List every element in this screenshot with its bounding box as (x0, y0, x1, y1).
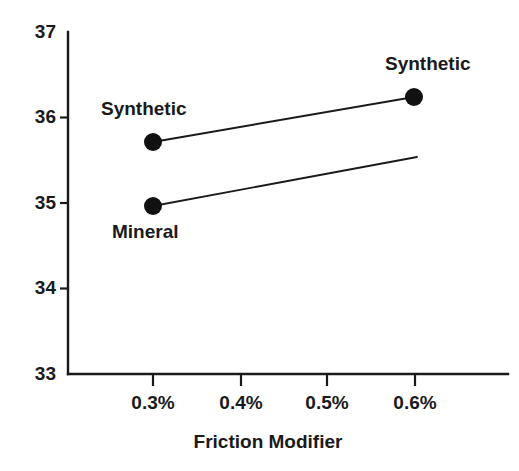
y-axis-label-34: 34 (10, 278, 56, 297)
x-axis-title: Friction Modifier (158, 432, 378, 451)
series-annotation-synthetic-right: Synthetic (385, 54, 471, 73)
y-axis-label-35: 35 (10, 193, 56, 212)
y-axis-label-37: 37 (10, 22, 56, 41)
data-point-synthetic-0.6 (405, 88, 423, 106)
series-annotation-synthetic-left: Synthetic (101, 99, 187, 118)
x-axis-label-0.6: 0.6% (380, 393, 450, 412)
series-annotation-mineral: Mineral (112, 222, 179, 241)
series-line-mineral (153, 157, 417, 206)
x-axis-label-0.3: 0.3% (118, 393, 188, 412)
y-axis-label-33: 33 (10, 364, 56, 383)
series-line-synthetic (153, 97, 414, 142)
y-axis-label-36: 36 (10, 107, 56, 126)
data-point-mineral-0.3 (144, 197, 162, 215)
x-axis-label-0.4: 0.4% (206, 393, 276, 412)
data-point-synthetic-0.3 (144, 133, 162, 151)
chart-container: 37 36 35 34 33 0.3% 0.4% 0.5% 0.6% Frict… (0, 0, 519, 471)
x-axis-label-0.5: 0.5% (292, 393, 362, 412)
